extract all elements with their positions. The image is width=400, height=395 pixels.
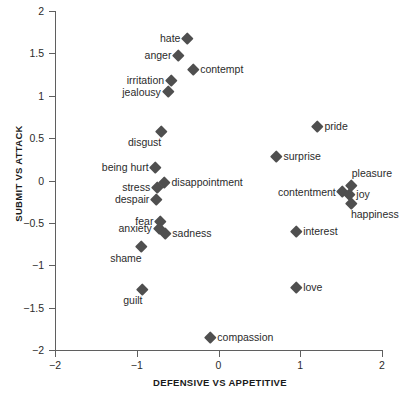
data-point-label: surprise — [284, 151, 321, 162]
data-point-label: anxiety — [119, 223, 152, 234]
x-tick-label: −1 — [131, 360, 143, 371]
data-point-label: guilt — [123, 295, 142, 306]
data-point-label: happiness — [351, 209, 399, 220]
data-point-label: love — [303, 282, 322, 293]
data-point-label: despair — [115, 194, 149, 205]
data-point-label: interest — [303, 226, 337, 237]
data-point-label: being hurt — [102, 162, 149, 173]
x-tick-mark — [382, 351, 383, 357]
scatter-chart: 21.510.50−0.5−1−1.5−2 −2−1012 DEFENSIVE … — [0, 0, 400, 395]
data-point-label: contempt — [200, 64, 243, 75]
x-tick-mark — [137, 351, 138, 357]
data-point-label: shame — [110, 253, 142, 264]
x-tick-label: 1 — [297, 360, 303, 371]
data-point-label: joy — [356, 189, 369, 200]
x-tick-label: 0 — [216, 360, 222, 371]
x-tick-mark — [219, 351, 220, 357]
y-tick-label: 1.5 — [29, 48, 44, 59]
data-point-label: anger — [145, 50, 172, 61]
y-tick-label: 1 — [38, 91, 44, 102]
y-tick-label: 0.5 — [29, 133, 44, 144]
x-axis-title: DEFENSIVE VS APPETITIVE — [0, 377, 400, 388]
data-point-label: pleasure — [352, 168, 392, 179]
data-point-label: contentment — [278, 187, 336, 198]
data-point-label: pride — [324, 121, 347, 132]
data-point-label: disappointment — [172, 177, 243, 188]
data-point-label: sadness — [172, 228, 211, 239]
y-tick-label: −0.5 — [23, 218, 44, 229]
x-tick-label: −2 — [49, 360, 61, 371]
data-point-label: jealousy — [122, 87, 161, 98]
data-point-label: stress — [122, 182, 150, 193]
x-tick-label: 2 — [379, 360, 385, 371]
x-tick-mark — [300, 351, 301, 357]
data-point-label: hate — [160, 33, 180, 44]
data-point-label: compassion — [217, 332, 273, 343]
data-point-label: disgust — [128, 137, 161, 148]
y-tick-label: 0 — [38, 176, 44, 187]
y-tick-label: −2 — [32, 345, 44, 356]
y-tick-label: −1.5 — [23, 303, 44, 314]
data-point-label: irritation — [127, 75, 164, 86]
x-tick-mark — [55, 351, 56, 357]
y-tick-label: −1 — [32, 260, 44, 271]
y-axis-title: SUBMIT VS ATTACK — [13, 94, 24, 254]
y-tick-label: 2 — [38, 6, 44, 17]
